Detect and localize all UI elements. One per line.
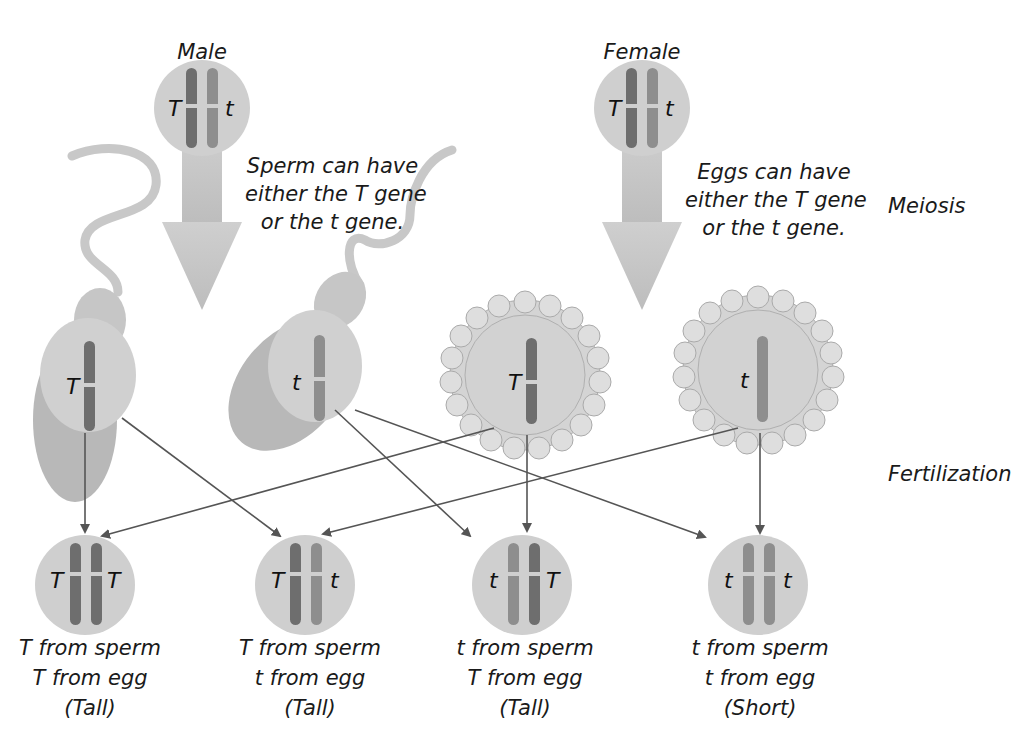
male-parent-cell: T t [154,60,250,156]
male-allele-2: t [225,96,235,121]
svg-text:T: T [271,568,286,593]
svg-text:t: t [330,568,340,593]
sperm-T: T [33,149,156,502]
meiosis-label: Meiosis [888,192,965,220]
svg-text:T: T [50,568,65,593]
offspring-cell-tt: t t [708,535,808,635]
svg-text:T: T [608,96,623,121]
svg-text:t: t [724,568,734,593]
fertilization-arrows [85,410,760,537]
offspring-cell-tT: t T [472,535,572,635]
svg-text:t: t [740,368,750,393]
female-label: Female [590,38,694,66]
male-allele-1: T [168,96,183,121]
svg-text:T: T [66,374,81,399]
egg-t: t [673,286,844,454]
svg-text:T: T [546,568,561,593]
svg-text:t: t [783,568,793,593]
svg-text:T: T [107,568,122,593]
female-parent-cell: T t [594,60,690,156]
svg-text:t: t [665,96,675,121]
offspring-cell-Tt: T t [255,535,355,635]
svg-text:t: t [292,370,302,395]
svg-text:t: t [489,568,499,593]
egg-T: T [440,291,611,459]
male-label: Male [160,38,244,66]
offspring-cell-TT: T T [35,535,135,635]
fertilization-label: Fertilization [888,460,1012,488]
svg-text:T: T [508,370,523,395]
